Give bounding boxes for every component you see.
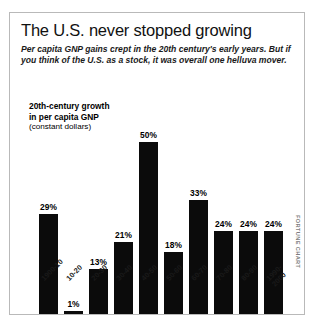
chart-credit: FORTUNE CHART <box>295 215 301 268</box>
bar-value-label: 18% <box>165 240 182 250</box>
bar-value-label: 50% <box>140 130 157 140</box>
bar-value-label: 33% <box>190 188 207 198</box>
bar-value-label: 21% <box>115 230 132 240</box>
bar <box>164 252 183 314</box>
bar <box>64 311 83 314</box>
bar-value-label: 24% <box>215 219 232 229</box>
bar-value-label: 24% <box>240 219 257 229</box>
plot-area: 29%1900-101%10-2013%20-3021%30-4050%40-5… <box>10 13 304 314</box>
bar-value-label: 1% <box>67 299 79 309</box>
bar-value-label: 24% <box>265 219 282 229</box>
bar <box>139 142 158 315</box>
chart-inner: The U.S. never stopped growing Per capit… <box>10 13 304 314</box>
chart-figure: The U.S. never stopped growing Per capit… <box>9 12 305 315</box>
bar-value-label: 29% <box>40 202 57 212</box>
bar <box>189 200 208 314</box>
